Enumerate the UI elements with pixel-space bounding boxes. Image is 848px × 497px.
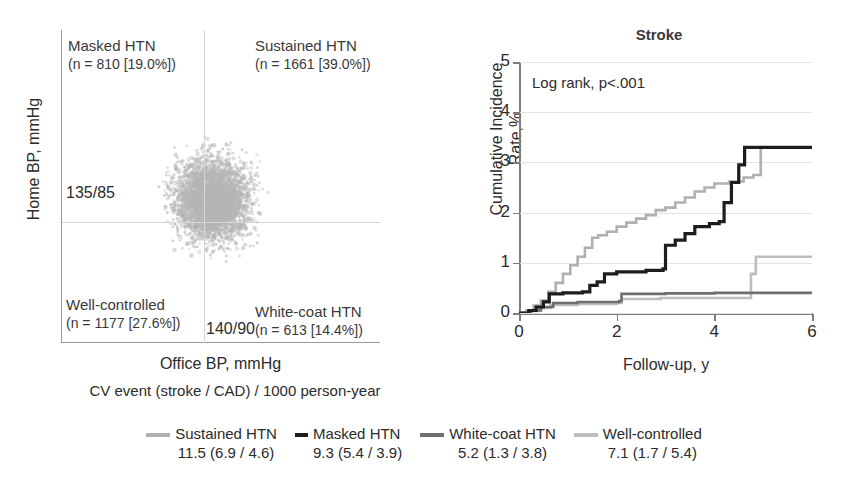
legend-color-swatch <box>420 433 444 437</box>
scatter-home-threshold-line <box>62 222 381 223</box>
legend-item: Masked HTN9.3 (5.4 / 3.9) <box>295 424 402 462</box>
km-x-tick-label: 4 <box>700 322 728 342</box>
quadrant-label-well-controlled: Well-controlled (n = 1177 [27.6%]) <box>66 295 181 333</box>
km-y-axis-label-line1: Cumulative Incidence <box>488 63 505 216</box>
legend-group-label: Masked HTN <box>313 425 401 442</box>
scatter-x-axis-label: Office BP, mmHg <box>61 355 380 373</box>
quadrant-detail-masked: (n = 810 [19.0%]) <box>68 55 176 74</box>
km-x-tick-mark <box>714 314 716 321</box>
quadrant-name-masked: Masked HTN <box>68 37 156 54</box>
km-panel: Stroke Cumulative Incidence Rate,% 01234… <box>470 0 848 410</box>
km-x-tick-label: 2 <box>603 322 631 342</box>
km-logrank-annotation: Log rank, p<.001 <box>532 74 645 91</box>
legend-group-label: White-coat HTN <box>449 425 556 442</box>
scatter-panel: Home BP, mmHg Masked HTN (n = 810 [19.0%… <box>0 0 470 410</box>
legend-text: Masked HTN9.3 (5.4 / 3.9) <box>313 424 402 462</box>
legend-color-swatch <box>146 433 170 437</box>
km-y-tick-label: 5 <box>486 51 510 71</box>
km-x-tick-label: 6 <box>798 322 826 342</box>
quadrant-detail-whitecoat: (n = 613 [14.4%]) <box>255 321 363 340</box>
figure-root: Home BP, mmHg Masked HTN (n = 810 [19.0%… <box>0 0 848 497</box>
quadrant-label-masked-htn: Masked HTN (n = 810 [19.0%]) <box>68 36 176 74</box>
km-curves-area <box>519 62 812 313</box>
legend-color-swatch <box>574 433 598 437</box>
km-y-tick-label: 3 <box>486 151 510 171</box>
quadrant-detail-sustained: (n = 1661 [39.0%]) <box>255 55 371 74</box>
legend-item: White-coat HTN5.2 (1.3 / 3.8) <box>420 424 556 462</box>
km-x-tick-mark <box>519 314 521 321</box>
km-curve-white-coat-htn <box>519 293 812 313</box>
km-x-tick-mark <box>812 314 814 321</box>
office-bp-threshold-value: 140/90 <box>206 320 255 338</box>
legend-group-label: Sustained HTN <box>175 425 277 442</box>
scatter-y-axis-label: Home BP, mmHg <box>25 89 43 229</box>
km-y-tick-label: 4 <box>486 101 510 121</box>
km-x-tick-mark <box>617 314 619 321</box>
legend-event-rate: 11.5 (6.9 / 4.6) <box>175 443 277 462</box>
km-curve-sustained-htn <box>519 147 812 313</box>
km-x-axis-label: Follow-up, y <box>519 356 813 374</box>
km-y-tick-label: 2 <box>486 202 510 222</box>
km-curves-svg <box>519 62 812 313</box>
quadrant-detail-wellcontrolled: (n = 1177 [27.6%]) <box>66 314 181 333</box>
legend-text: Sustained HTN11.5 (6.9 / 4.6) <box>175 424 277 462</box>
quadrant-name-whitecoat: White-coat HTN <box>255 303 362 320</box>
legend-text: White-coat HTN5.2 (1.3 / 3.8) <box>449 424 556 462</box>
legend-text: Well-controlled7.1 (1.7 / 5.4) <box>603 424 702 462</box>
legend-color-swatch <box>295 433 308 437</box>
quadrant-name-wellcontrolled: Well-controlled <box>66 296 165 313</box>
quadrant-name-sustained: Sustained HTN <box>255 37 357 54</box>
km-y-tick-label: 1 <box>486 252 510 272</box>
km-curve-masked-htn <box>519 147 812 313</box>
legend-event-rate: 5.2 (1.3 / 3.8) <box>449 443 556 462</box>
legend-item: Sustained HTN11.5 (6.9 / 4.6) <box>146 424 277 462</box>
quadrant-label-sustained-htn: Sustained HTN (n = 1661 [39.0%]) <box>255 36 371 74</box>
legend-group-label: Well-controlled <box>603 425 702 442</box>
legend-item: Well-controlled7.1 (1.7 / 5.4) <box>574 424 702 462</box>
scatter-office-threshold-line <box>204 30 205 343</box>
legend-event-rate: 7.1 (1.7 / 5.4) <box>603 443 702 462</box>
km-chart-title: Stroke <box>470 26 848 43</box>
figure-legend: Sustained HTN11.5 (6.9 / 4.6)Masked HTN9… <box>0 424 848 484</box>
quadrant-label-white-coat-htn: White-coat HTN (n = 613 [14.4%]) <box>255 302 363 340</box>
km-y-tick-label: 0 <box>486 302 510 322</box>
legend-event-rate: 9.3 (5.4 / 3.9) <box>313 443 402 462</box>
km-x-tick-label: 0 <box>505 322 533 342</box>
km-gridline <box>520 313 812 314</box>
home-bp-threshold-value: 135/85 <box>66 184 115 202</box>
figure-caption: CV event (stroke / CAD) / 1000 person-ye… <box>20 382 450 399</box>
